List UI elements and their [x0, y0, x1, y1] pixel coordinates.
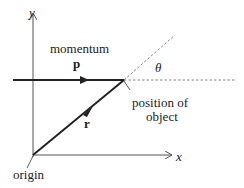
position-of-object-label-line1: position of: [132, 96, 188, 110]
position-vector: [33, 80, 124, 155]
x-axis-label: x: [176, 150, 182, 164]
object-leader-line: [124, 81, 130, 90]
origin-label: origin: [13, 168, 44, 182]
momentum-symbol: p: [73, 57, 80, 71]
diagram-canvas: [0, 0, 244, 188]
angle-theta-label: θ: [155, 61, 161, 75]
position-of-object-label-line2: object: [146, 110, 178, 124]
y-axis-label: y: [29, 6, 35, 20]
momentum-arrowhead-icon: [80, 76, 89, 84]
position-symbol: r: [84, 117, 90, 131]
momentum-direction-dashed: [124, 35, 175, 80]
momentum-label: momentum: [50, 42, 109, 56]
